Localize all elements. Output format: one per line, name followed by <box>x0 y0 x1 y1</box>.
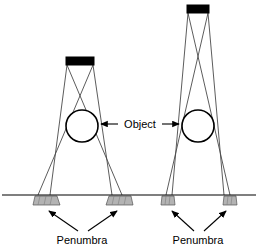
left-penumbra-outer <box>33 196 60 205</box>
object-label: Object <box>124 118 156 130</box>
right-penumbra-outer <box>161 196 175 205</box>
wide-source <box>66 57 94 65</box>
penumbra-diagram-svg: Penumbra Penumbra <box>0 0 258 249</box>
right-penumbra-inner <box>223 196 237 205</box>
left-circle <box>66 110 98 142</box>
right-circle <box>182 110 214 142</box>
penumbra-label-right: Penumbra <box>173 234 225 246</box>
narrow-source <box>187 5 209 13</box>
diagram-canvas: Penumbra Penumbra <box>0 0 258 249</box>
penumbra-label-left: Penumbra <box>57 234 109 246</box>
